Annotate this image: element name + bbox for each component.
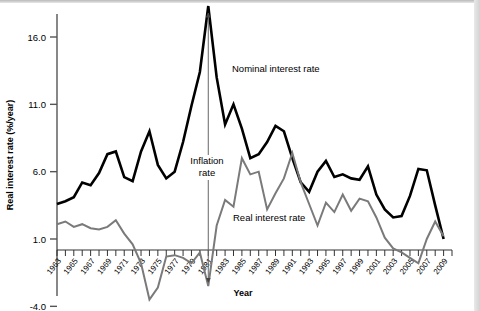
x-axis-tick-label: 1965 <box>62 256 80 276</box>
y-axis-tick-label: 1.0 <box>33 234 46 245</box>
x-axis-title: Year <box>233 288 253 298</box>
x-axis-tick-label: 1963 <box>45 256 63 276</box>
series-line-nominal-interest-rate <box>57 6 444 239</box>
y-axis-tick-label: 6.0 <box>33 166 46 177</box>
interest-rate-line-chart: 16.011.06.01.0-4.0 196319651967196919711… <box>0 0 480 311</box>
y-axis-title: Real interest rate (%/year) <box>5 100 15 211</box>
series-line-real-interest-rate <box>57 153 444 300</box>
x-axis-tick-label: 1983 <box>213 256 231 276</box>
x-axis-tick-label: 1995 <box>314 256 332 276</box>
x-axis-tick-label: 1991 <box>280 256 298 276</box>
y-axis-tick-label: 16.0 <box>28 32 47 43</box>
y-axis-tick-label: -4.0 <box>30 301 46 311</box>
inflation-rate-label-line1: Inflation <box>190 155 223 166</box>
x-axis-tick-label: 1967 <box>79 256 97 276</box>
x-axis-tick-label: 2009 <box>432 256 450 276</box>
x-axis-tick-label: 1971 <box>112 256 130 276</box>
y-axis-tick-label: 11.0 <box>28 99 46 110</box>
x-axis-tick-labels: 1963196519671969197119731975197719791981… <box>45 256 450 276</box>
real-series-label: Real interest rate <box>233 212 305 223</box>
x-axis-tick-label: 1993 <box>297 256 315 276</box>
x-axis-tick-label: 1999 <box>348 256 366 276</box>
x-axis-tick-label: 1997 <box>331 256 349 276</box>
chart-page: 16.011.06.01.0-4.0 196319651967196919711… <box>0 0 480 311</box>
x-axis-tick-label: 2007 <box>415 256 433 276</box>
x-axis-tick-label: 2003 <box>381 256 399 276</box>
y-axis-tick-labels: 16.011.06.01.0-4.0 <box>28 32 47 311</box>
x-axis-tick-label: 2001 <box>364 256 382 276</box>
x-axis-tick-label: 1989 <box>264 256 282 276</box>
x-axis-tick-label: 1987 <box>247 256 265 276</box>
nominal-series-label: Nominal interest rate <box>232 63 320 74</box>
x-axis-tick-label: 1985 <box>230 256 248 276</box>
x-axis-tick-label: 1969 <box>95 256 113 276</box>
inflation-rate-label-line2: rate <box>199 167 215 178</box>
